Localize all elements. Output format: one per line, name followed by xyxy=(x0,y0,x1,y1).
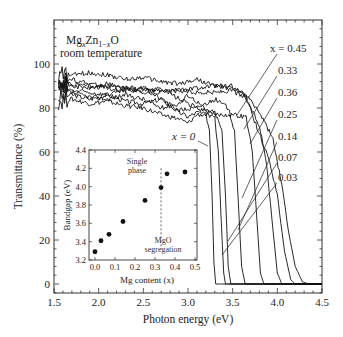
series-label: 0.07 xyxy=(278,151,298,163)
single-phase-label: Single xyxy=(127,157,148,166)
leader-line xyxy=(237,54,277,115)
leader-line xyxy=(244,76,277,129)
leader-line xyxy=(222,183,277,255)
inset-y-tick-label: 3.2 xyxy=(75,255,86,265)
series-label-x0: x = 0 xyxy=(171,130,196,142)
series-label: x = 0.45 xyxy=(270,42,307,54)
inset-x-tick-label: 0.2 xyxy=(130,262,141,272)
series-label: 0.14 xyxy=(278,130,298,142)
inset-y-tick-label: 4.0 xyxy=(75,182,86,192)
bandgap-point xyxy=(99,238,104,243)
mgo-segregation-label: MgO xyxy=(155,236,172,245)
x-tick-label: 3.5 xyxy=(226,296,240,308)
inset-x-axis-title: Mg content (x) xyxy=(120,275,174,285)
sample-condition: room temperature xyxy=(60,47,142,60)
inset-x-tick-label: 0.4 xyxy=(170,262,181,272)
bandgap-point xyxy=(159,185,164,190)
y-tick-label: 80 xyxy=(39,102,51,114)
leader-line-x0 xyxy=(198,141,208,146)
y-axis-title: Transmittance (%) xyxy=(12,124,25,210)
bandgap-point xyxy=(143,198,148,203)
series-label: 0.25 xyxy=(278,108,298,120)
inset-y-axis-title: Bandgap (eV) xyxy=(62,180,72,231)
y-tick-label: 100 xyxy=(34,58,51,70)
series-label: 0.03 xyxy=(278,171,298,183)
inset-bandgap-plot: 0.00.10.20.30.40.53.23.43.63.84.04.24.4M… xyxy=(62,145,200,285)
x-tick-label: 3.0 xyxy=(181,296,195,308)
inset-x-tick-label: 0.1 xyxy=(110,262,121,272)
transmittance-chart: 1.52.02.53.03.54.04.5020406080100Photon … xyxy=(0,0,343,337)
y-tick-label: 20 xyxy=(39,234,51,246)
y-tick-label: 60 xyxy=(39,146,51,158)
bandgap-point xyxy=(121,219,126,224)
x-axis-title: Photon energy (eV) xyxy=(143,313,234,326)
leader-line xyxy=(238,142,277,230)
x-tick-label: 4.0 xyxy=(270,296,284,308)
mgo-segregation-label: segregation xyxy=(145,245,182,254)
bandgap-point xyxy=(183,170,188,175)
bandgap-point xyxy=(93,249,98,254)
single-phase-label: phase xyxy=(128,166,147,175)
x-tick-label: 2.5 xyxy=(136,296,150,308)
inset-y-tick-label: 3.4 xyxy=(75,237,86,247)
bandgap-point xyxy=(107,232,112,237)
series-label: 0.36 xyxy=(278,86,298,98)
inset-y-tick-label: 4.2 xyxy=(75,163,86,173)
inset-y-tick-label: 3.8 xyxy=(75,200,86,210)
leader-line xyxy=(242,120,277,198)
inset-x-tick-label: 0.0 xyxy=(90,262,101,272)
bandgap-point xyxy=(165,171,170,176)
series-label: 0.33 xyxy=(278,64,298,76)
x-tick-label: 1.5 xyxy=(47,296,61,308)
inset-x-tick-label: 0.5 xyxy=(190,262,201,272)
x-tick-label: 2.0 xyxy=(92,296,106,308)
inset-x-tick-label: 0.3 xyxy=(150,262,161,272)
y-tick-label: 0 xyxy=(45,278,51,290)
x-tick-label: 4.5 xyxy=(315,296,329,308)
y-tick-label: 40 xyxy=(39,190,51,202)
inset-y-tick-label: 3.6 xyxy=(75,218,86,228)
inset-y-tick-label: 4.4 xyxy=(75,145,86,155)
